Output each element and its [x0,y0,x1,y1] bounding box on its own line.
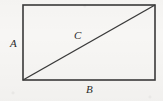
label-side-a: A [10,38,17,49]
rectangle-diagonal-drawing [0,0,163,101]
diagonal-line [23,5,155,80]
label-side-b: B [86,84,93,95]
label-diagonal-c: C [74,30,81,41]
geometry-figure: A C B [0,0,163,101]
